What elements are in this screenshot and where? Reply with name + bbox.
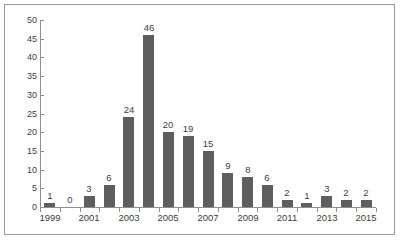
bar bbox=[301, 203, 312, 207]
bar-value-label: 19 bbox=[173, 124, 203, 134]
bar-value-label: 0 bbox=[55, 195, 85, 205]
bar-value-label: 24 bbox=[114, 105, 144, 115]
x-axis-line bbox=[40, 207, 376, 208]
y-axis-tick bbox=[40, 114, 44, 115]
y-axis-tick-label: 5 bbox=[7, 184, 37, 193]
bar bbox=[123, 117, 134, 207]
bar bbox=[44, 203, 55, 207]
y-axis-tick bbox=[40, 20, 44, 21]
y-axis-tick bbox=[40, 188, 44, 189]
bar-value-label: 46 bbox=[134, 23, 164, 33]
y-axis-tick bbox=[40, 57, 44, 58]
y-axis-tick-label: 10 bbox=[7, 166, 37, 175]
y-axis-tick bbox=[40, 170, 44, 171]
x-axis-tick-label: 1999 bbox=[30, 212, 70, 223]
bar-value-label: 15 bbox=[193, 139, 223, 149]
bar bbox=[84, 196, 95, 207]
bar-value-label: 3 bbox=[74, 184, 104, 194]
y-axis-tick bbox=[40, 39, 44, 40]
bar bbox=[341, 200, 352, 207]
bar-chart: 05101520253035404550 1999200120032005200… bbox=[0, 0, 401, 241]
x-axis-tick-label: 2007 bbox=[188, 212, 228, 223]
y-axis-tick-label: 0 bbox=[7, 203, 37, 212]
bar bbox=[361, 200, 372, 207]
y-axis-tick bbox=[40, 95, 44, 96]
x-axis-tick-label: 2009 bbox=[228, 212, 268, 223]
bar bbox=[163, 132, 174, 207]
bar-value-label: 6 bbox=[94, 173, 124, 183]
x-axis-tick-label: 2001 bbox=[69, 212, 109, 223]
bar bbox=[203, 151, 214, 207]
x-axis-tick-label: 2013 bbox=[307, 212, 347, 223]
y-axis-tick-label: 50 bbox=[7, 16, 37, 25]
bar-value-label: 2 bbox=[351, 188, 381, 198]
y-axis-tick-label: 40 bbox=[7, 53, 37, 62]
y-axis-tick bbox=[40, 76, 44, 77]
y-axis-tick-label: 15 bbox=[7, 147, 37, 156]
y-axis-tick-label: 30 bbox=[7, 91, 37, 100]
bar bbox=[222, 173, 233, 207]
y-axis-tick-label: 45 bbox=[7, 35, 37, 44]
x-axis-tick-label: 2005 bbox=[148, 212, 188, 223]
y-axis-tick-label: 35 bbox=[7, 72, 37, 81]
bar bbox=[104, 185, 115, 207]
y-axis-tick bbox=[40, 151, 44, 152]
x-axis-tick-label: 2003 bbox=[109, 212, 149, 223]
x-axis-tick-label: 2011 bbox=[267, 212, 307, 223]
x-axis-tick-label: 2015 bbox=[346, 212, 386, 223]
y-axis-tick-label: 20 bbox=[7, 128, 37, 137]
bar-value-label: 6 bbox=[252, 173, 282, 183]
y-axis-tick bbox=[40, 132, 44, 133]
bar bbox=[282, 200, 293, 207]
y-axis-tick-label: 25 bbox=[7, 110, 37, 119]
